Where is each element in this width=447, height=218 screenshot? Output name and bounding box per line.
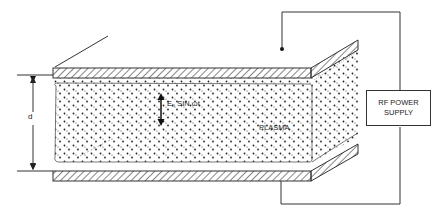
rf-power-supply-box: RF POWER SUPPLY xyxy=(366,90,431,126)
top-electrode xyxy=(53,36,358,78)
plasma-region xyxy=(53,48,358,162)
rf-power-supply-label-line1: RF POWER xyxy=(378,98,418,108)
rf-power-supply-label-line2: SUPPLY xyxy=(378,108,418,118)
gap-dimension xyxy=(17,75,53,171)
field-label: E₀ SIN ωt xyxy=(167,99,200,108)
plasma-label: PLASMA xyxy=(259,123,289,132)
gap-label: d xyxy=(28,112,32,121)
